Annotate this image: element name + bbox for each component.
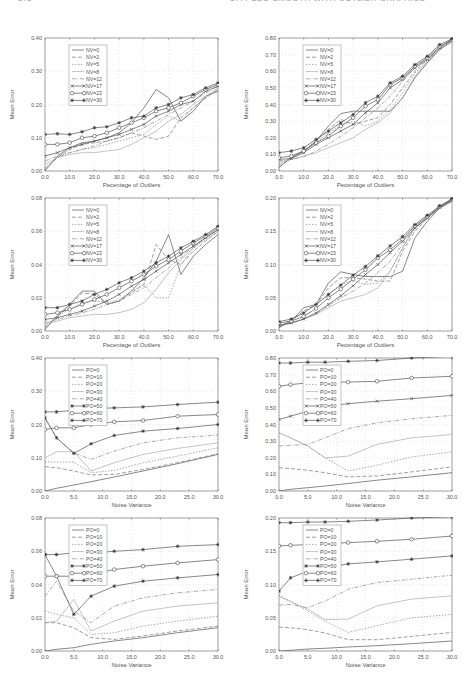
x-tick-label: 0.0	[275, 654, 283, 660]
legend-entry: NV=30	[86, 257, 102, 263]
y-tick-label: 0.00	[265, 488, 276, 494]
y-tick-label: 0.40	[265, 102, 276, 108]
legend-entry: NV=17	[320, 83, 336, 89]
legend-entry: NV=17	[86, 243, 102, 249]
y-tick-label: 0.10	[265, 262, 276, 268]
y-tick-label: 0.10	[265, 471, 276, 477]
x-tick-label: 25.0	[418, 494, 429, 500]
legend-entry: PO=0	[320, 367, 334, 373]
x-tick-label: 70.0	[447, 174, 458, 180]
legend-entry: PO=20	[86, 541, 102, 547]
y-axis-label: Mean Error	[9, 249, 15, 279]
x-tick-label: 20.0	[89, 174, 100, 180]
x-tick-label: 20.0	[89, 334, 100, 340]
x-axis-label: Pecentage of Outliers	[337, 182, 395, 188]
legend-entry: PO=70	[320, 417, 336, 423]
legend-entry: PO=20	[320, 541, 336, 547]
legend: NV=0NV=2NV=5NV=8NV=12NV=17NV=23NV=30	[69, 45, 107, 106]
chart-svg: 0.010.020.030.040.050.060.070.00.000.100…	[234, 30, 468, 190]
legend-entry: PO=10	[86, 534, 102, 540]
y-tick-label: 0.30	[31, 388, 42, 394]
legend-entry: NV=17	[320, 243, 336, 249]
legend-entry: NV=30	[320, 97, 336, 103]
x-axis-label: Pecentage of Outliers	[103, 342, 161, 348]
y-tick-label: 0.08	[31, 515, 42, 521]
y-tick-label: 0.20	[265, 195, 276, 201]
legend-entry: NV=30	[320, 257, 336, 263]
y-tick-label: 0.00	[31, 488, 42, 494]
chart-svg: 0.05.010.015.020.025.030.00.000.100.200.…	[234, 350, 468, 510]
y-tick-label: 0.10	[31, 135, 42, 141]
x-tick-label: 60.0	[422, 174, 433, 180]
x-tick-label: 40.0	[372, 174, 383, 180]
legend-entry: NV=0	[86, 207, 99, 213]
y-tick-label: 0.00	[265, 648, 276, 654]
y-tick-label: 0.20	[265, 455, 276, 461]
y-tick-label: 0.00	[31, 328, 42, 334]
legend-entry: PO=40	[320, 556, 336, 562]
x-tick-label: 50.0	[397, 174, 408, 180]
legend-entry: PO=60	[320, 410, 336, 416]
chart-e: 0.05.010.015.020.025.030.00.000.100.200.…	[0, 350, 234, 514]
legend-entry: PO=20	[86, 381, 102, 387]
chart-svg: 0.05.010.015.020.025.030.00.000.020.040.…	[0, 510, 234, 670]
x-axis-label: Noise Variance	[345, 662, 386, 668]
x-tick-label: 50.0	[163, 334, 174, 340]
x-tick-label: 10.0	[64, 174, 75, 180]
x-tick-label: 15.0	[126, 494, 137, 500]
legend-entry: PO=50	[86, 563, 102, 569]
x-tick-label: 0.0	[41, 334, 49, 340]
x-axis-label: Noise Variance	[111, 662, 152, 668]
x-tick-label: 60.0	[188, 334, 199, 340]
legend-entry: NV=0	[86, 47, 99, 53]
legend-entry: PO=40	[86, 556, 102, 562]
x-tick-label: 0.0	[41, 174, 49, 180]
y-tick-label: 0.50	[265, 85, 276, 91]
x-tick-label: 0.0	[275, 494, 283, 500]
legend: PO=0PO=10PO=20PO=30PO=40PO=50PO=60PO=70	[69, 525, 107, 586]
x-tick-label: 60.0	[188, 174, 199, 180]
y-tick-label: 0.20	[31, 422, 42, 428]
y-tick-label: 0.04	[31, 262, 42, 268]
x-tick-label: 20.0	[323, 174, 334, 180]
y-tick-label: 0.15	[265, 228, 276, 234]
page-number: 378	[18, 0, 31, 3]
x-tick-label: 10.0	[331, 494, 342, 500]
legend-entry: NV=5	[86, 61, 99, 67]
legend: PO=0PO=10PO=20PO=30PO=40PO=50PO=60PO=70	[303, 525, 341, 586]
chart-b: 0.010.020.030.040.050.060.070.00.000.100…	[234, 30, 468, 194]
legend: NV=0NV=2NV=5NV=8NV=12NV=17NV=23NV=30	[69, 205, 107, 266]
legend-entry: NV=23	[320, 250, 336, 256]
legend-entry: NV=12	[320, 236, 336, 242]
x-tick-label: 30.0	[213, 654, 224, 660]
y-tick-label: 0.40	[265, 422, 276, 428]
page-header: 378 17. PSEG-SMOOTH WITH OUTLIER GRAPHIC…	[0, 0, 468, 4]
legend-entry: PO=0	[86, 527, 100, 533]
x-tick-label: 0.0	[41, 494, 49, 500]
x-tick-label: 10.0	[298, 334, 309, 340]
chart-h: 0.05.010.015.020.025.030.00.000.050.100.…	[234, 510, 468, 674]
legend-entry: NV=2	[86, 54, 99, 60]
y-axis-label: Mean Error	[9, 89, 15, 119]
y-tick-label: 0.00	[265, 168, 276, 174]
legend-entry: PO=30	[86, 389, 102, 395]
chart-f: 0.05.010.015.020.025.030.00.000.100.200.…	[234, 350, 468, 514]
x-tick-label: 0.0	[275, 174, 283, 180]
y-tick-label: 0.70	[265, 372, 276, 378]
chart-g: 0.05.010.015.020.025.030.00.000.020.040.…	[0, 510, 234, 674]
legend-entry: PO=20	[320, 381, 336, 387]
y-axis-label: Mean Error	[9, 409, 15, 439]
x-tick-label: 40.0	[372, 334, 383, 340]
x-tick-label: 50.0	[397, 334, 408, 340]
legend-entry: NV=23	[320, 90, 336, 96]
x-tick-label: 15.0	[360, 654, 371, 660]
legend-entry: PO=60	[86, 570, 102, 576]
y-axis-label: Mean Error	[9, 569, 15, 599]
y-tick-label: 0.05	[265, 615, 276, 621]
legend-entry: PO=60	[86, 410, 102, 416]
y-tick-label: 0.40	[31, 355, 42, 361]
x-tick-label: 0.0	[275, 334, 283, 340]
y-tick-label: 0.70	[265, 52, 276, 58]
chart-svg: 0.010.020.030.040.050.060.070.00.000.100…	[0, 30, 234, 190]
y-tick-label: 0.60	[265, 388, 276, 394]
